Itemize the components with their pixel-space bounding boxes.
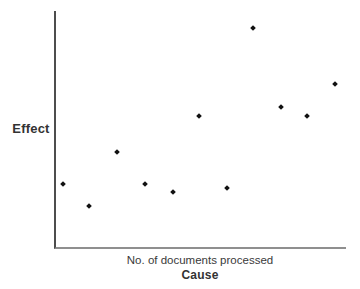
data-point xyxy=(225,185,231,191)
data-point xyxy=(170,190,176,196)
data-point xyxy=(196,113,202,119)
data-point xyxy=(251,25,257,31)
data-point xyxy=(87,204,93,210)
x-axis-label: No. of documents processed xyxy=(54,254,346,266)
data-point xyxy=(305,113,311,119)
plot-area xyxy=(54,11,346,249)
y-axis-label: Effect xyxy=(4,121,58,136)
data-point xyxy=(60,181,66,187)
data-point xyxy=(278,104,284,110)
data-point xyxy=(332,81,338,87)
data-point xyxy=(142,181,148,187)
x-axis-category-label: Cause xyxy=(54,268,346,282)
data-point xyxy=(115,149,121,155)
scatter-plot-figure: Effect No. of documents processed Cause xyxy=(0,0,360,289)
